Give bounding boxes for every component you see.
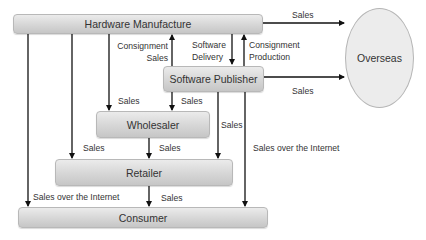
node-wholesaler: Wholesaler [96, 111, 210, 138]
node-label: Software Publisher [169, 73, 257, 85]
node-software-publisher: Software Publisher [163, 66, 264, 92]
node-consumer: Consumer [18, 207, 268, 228]
node-label: Retailer [126, 167, 162, 179]
label-sp-to-consumer: Sales over the Internet [253, 143, 339, 154]
node-overseas: Overseas [345, 8, 414, 108]
label-consignment-production-line1: Consignment [249, 40, 300, 51]
label-wholesaler-to-retailer: Sales [159, 143, 181, 154]
node-label: Hardware Manufacture [85, 18, 192, 30]
label-consignment-sales-line2: Sales [115, 53, 168, 64]
label-consignment-sales-line1: Consignment [115, 41, 168, 52]
label-sp-to-overseas: Sales [292, 86, 314, 97]
node-label: Overseas [357, 52, 402, 64]
node-retailer: Retailer [55, 159, 233, 186]
node-label: Wholesaler [127, 119, 180, 131]
label-sp-to-retailer: Sales [221, 120, 243, 131]
label-hw-to-wholesaler: Sales [118, 96, 140, 107]
label-consignment-production-line2: Production [249, 52, 290, 63]
label-sp-to-wholesaler: Sales [181, 96, 203, 107]
label-hw-to-overseas: Sales [292, 10, 314, 21]
label-hw-to-retailer: Sales [83, 143, 105, 154]
node-label: Consumer [119, 212, 167, 224]
node-hardware-manufacture: Hardware Manufacture [13, 14, 263, 34]
label-hw-to-consumer: Sales over the Internet [33, 192, 119, 203]
label-software-delivery-line1: Software [192, 40, 226, 51]
label-software-delivery-line2: Delivery [192, 52, 223, 63]
label-retailer-to-consumer: Sales [161, 193, 183, 204]
